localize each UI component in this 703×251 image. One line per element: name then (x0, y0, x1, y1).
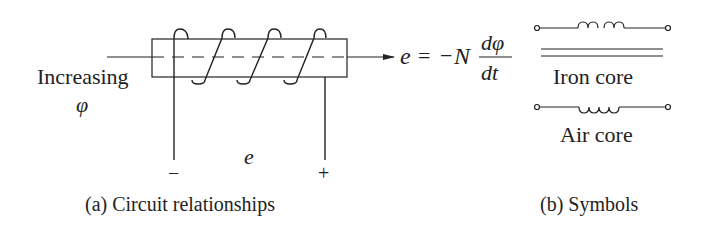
terminal-left-icon (535, 26, 540, 31)
minus-terminal: − (168, 162, 179, 184)
caption-a: (a) Circuit relationships (85, 193, 275, 216)
caption-b: (b) Symbols (540, 193, 639, 216)
figure-canvas: Increasing φ e − + e = − N dφ dt (a) Cir… (0, 0, 703, 251)
air-core-label: Air core (560, 122, 633, 147)
equation-lhs: e (400, 43, 411, 69)
equation-coefficient: N (453, 43, 472, 69)
terminal-right-icon (666, 26, 671, 31)
iron-core-label: Iron core (553, 64, 633, 89)
emf-label: e (244, 144, 254, 169)
flux-symbol: φ (76, 92, 88, 117)
core-rectangle (152, 39, 347, 77)
terminal-left-icon (535, 105, 540, 110)
panel-a-circuit (107, 29, 394, 160)
coil-winding (174, 29, 326, 160)
flux-label: Increasing (37, 64, 129, 89)
faraday-equation: e = − N dφ dt (400, 30, 512, 85)
terminal-right-icon (666, 105, 671, 110)
air-core-inductor-symbol (535, 105, 671, 114)
equation-denominator: dt (481, 60, 499, 85)
plus-terminal: + (318, 162, 329, 184)
equation-numerator: dφ (481, 30, 504, 55)
equation-equals: = (418, 43, 430, 68)
iron-core-inductor-symbol (535, 22, 671, 56)
equation-sign: − (440, 43, 452, 68)
